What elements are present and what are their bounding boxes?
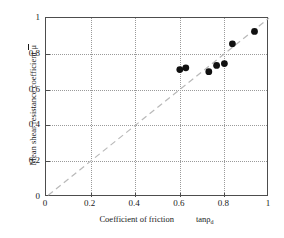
y-axis-title: Mean shear resistance coefficient μ xyxy=(28,5,38,205)
x-axis-symbol-subscript: d xyxy=(211,219,214,225)
reference-line-1-to-1 xyxy=(48,18,269,195)
tick-x-0.6 xyxy=(180,193,181,197)
xtick-label-0.2: 0.2 xyxy=(75,198,105,208)
xtick-label-1: 1 xyxy=(253,198,283,208)
chart-figure: 0 0.2 0.4 0.6 0.8 1 1 0.8 0.6 0.4 0.2 0 … xyxy=(0,0,284,238)
tick-y-0.8 xyxy=(46,54,50,55)
tick-y-0.6 xyxy=(46,90,50,91)
tick-y-0.4 xyxy=(46,125,50,126)
data-point xyxy=(251,28,258,35)
data-point xyxy=(213,62,220,69)
plot-area xyxy=(45,17,268,196)
xtick-label-0.6: 0.6 xyxy=(164,198,194,208)
tick-x-0.4 xyxy=(135,193,136,197)
data-point xyxy=(182,64,189,71)
data-point xyxy=(205,68,212,75)
tick-x-0.2 xyxy=(91,193,92,197)
data-overlay xyxy=(46,18,269,197)
x-axis-title: Coefficient of frictiontanρd xyxy=(45,214,268,225)
x-axis-title-text: Coefficient of friction xyxy=(99,214,173,224)
data-point xyxy=(221,60,228,67)
y-axis-title-text: Mean shear resistance coefficient xyxy=(28,52,38,165)
xtick-label-0.8: 0.8 xyxy=(208,198,238,208)
y-axis-symbol-mu-bar: μ xyxy=(28,44,38,50)
tick-y-0.2 xyxy=(46,161,50,162)
scatter-series-measurements xyxy=(176,28,258,75)
data-point xyxy=(229,40,236,47)
x-axis-symbol: tanρ xyxy=(196,214,211,224)
tick-x-0.8 xyxy=(224,193,225,197)
xtick-label-0.4: 0.4 xyxy=(119,198,149,208)
data-point xyxy=(176,66,183,73)
